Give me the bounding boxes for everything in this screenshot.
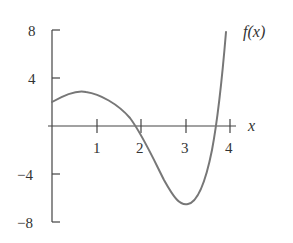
y-tick-neg4: −4	[17, 167, 33, 183]
function-label: f(x)	[243, 23, 265, 41]
x-tick-3: 3	[181, 140, 189, 156]
function-plot: 8 4 −4 −8 1 2 3 4 x f(x)	[0, 0, 293, 243]
x-tick-2: 2	[136, 140, 144, 156]
y-tick-8: 8	[28, 23, 36, 39]
y-tick-4: 4	[28, 71, 36, 87]
x-axis	[48, 119, 236, 133]
x-tick-1: 1	[93, 140, 101, 156]
y-tick-neg8: −8	[17, 215, 33, 231]
x-tick-4: 4	[225, 140, 233, 156]
function-curve	[52, 32, 226, 204]
x-axis-label: x	[247, 117, 255, 134]
